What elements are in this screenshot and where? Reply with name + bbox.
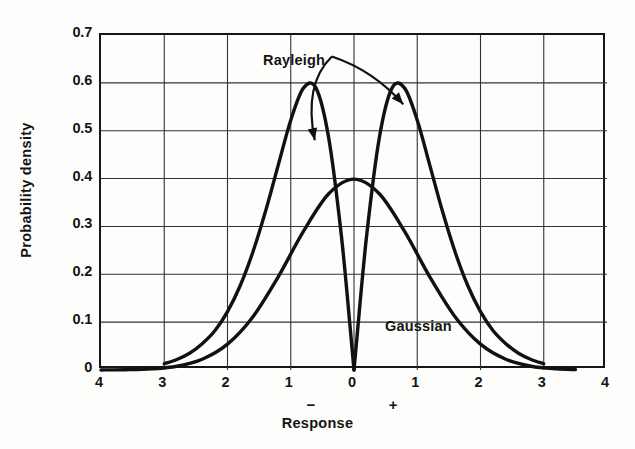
y-tick-label: 0.6 — [72, 72, 92, 88]
series-label-rayleigh: Rayleigh — [263, 52, 325, 68]
x-tick-label: 4 — [590, 374, 620, 390]
y-axis-title: Probability density — [18, 90, 34, 290]
x-axis-title: Response — [0, 415, 635, 431]
y-tick-label: 0.2 — [72, 263, 92, 279]
x-axis-sign-mark: + — [378, 396, 408, 413]
x-tick-label: 4 — [84, 374, 114, 390]
y-tick-label: 0.3 — [72, 215, 92, 231]
x-tick-label: 2 — [211, 374, 241, 390]
x-tick-label: 1 — [274, 374, 304, 390]
x-tick-label: 3 — [527, 374, 557, 390]
x-tick-label: 1 — [400, 374, 430, 390]
y-tick-label: 0.1 — [72, 311, 92, 327]
x-axis-sign-mark: − — [296, 396, 326, 413]
y-tick-label: 0 — [84, 359, 92, 375]
y-tick-label: 0.5 — [72, 120, 92, 136]
y-tick-label: 0.4 — [72, 168, 92, 184]
x-tick-label: 3 — [147, 374, 177, 390]
annotation-arrow-head — [308, 127, 317, 140]
annotation-arrow-line — [312, 57, 332, 141]
x-tick-label: 0 — [337, 374, 367, 390]
x-tick-label: 2 — [464, 374, 494, 390]
chart-figure: 0.70.60.50.40.30.20.10 Probability densi… — [0, 0, 635, 449]
y-tick-label: 0.7 — [72, 24, 92, 40]
annotation-arrows — [101, 35, 607, 370]
plot-area — [99, 33, 605, 368]
series-label-gaussian: Gaussian — [385, 318, 452, 334]
annotation-arrow-line — [332, 57, 403, 105]
